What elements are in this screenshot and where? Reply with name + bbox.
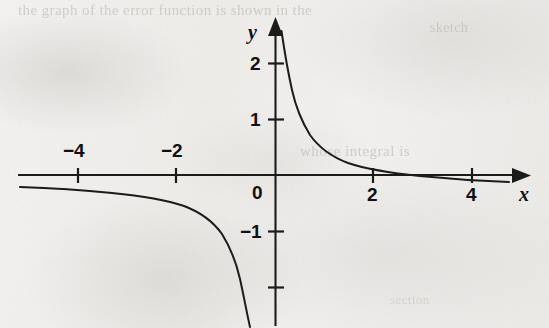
curve-branch-negative — [20, 187, 250, 327]
y-tick-label-minus1: −1 — [240, 222, 262, 241]
y-tick-label-2: 2 — [250, 54, 261, 73]
origin-label: 0 — [252, 183, 263, 202]
scanned-figure: the graph of the error function is shown… — [0, 0, 549, 328]
x-tick-label-minus4: −4 — [63, 141, 85, 160]
x-tick-label-minus2: −2 — [161, 141, 183, 160]
x-axis-label: x — [519, 184, 529, 204]
y-tick-label-1: 1 — [250, 110, 261, 129]
y-axis-label: y — [248, 22, 257, 42]
x-axis-arrow-icon — [512, 168, 531, 183]
x-tick-label-4: 4 — [466, 185, 477, 204]
y-axis-arrow-icon — [268, 17, 283, 36]
x-tick-label-2: 2 — [367, 185, 378, 204]
graph-plot — [0, 0, 549, 328]
curve-branch-positive — [282, 31, 510, 182]
